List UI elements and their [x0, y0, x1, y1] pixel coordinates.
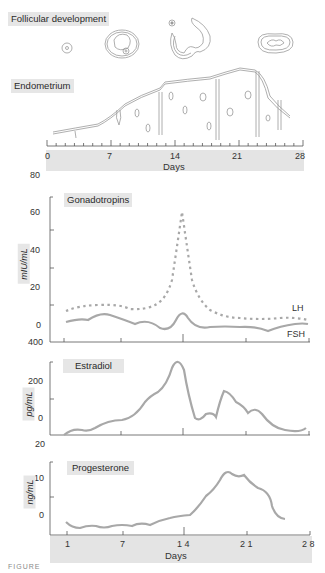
gonadotropins-stray-400: 400	[28, 337, 43, 347]
primordial-follicle-icon	[62, 43, 72, 53]
gonadotropins-title: Gonadotropins	[64, 193, 132, 207]
fsh-curve	[66, 313, 308, 331]
gonadotropins-stray-80: 80	[30, 170, 40, 180]
lh-series-label: LH	[292, 303, 304, 313]
bottom-tick-28: 2 8	[302, 539, 315, 549]
endometrium-illustration	[53, 68, 290, 140]
figure-caption: FIGURE	[8, 563, 40, 570]
top-axis-ticks	[47, 140, 303, 146]
endometrium-title: Endometrium	[11, 79, 74, 93]
estradiol-ylabel: pg/mL	[23, 387, 35, 420]
bottom-tick-14: 1 4	[177, 539, 190, 549]
top-tick-21: 21	[232, 151, 242, 161]
top-tick-28: 28	[295, 151, 305, 161]
estradiol-stray-20: 20	[35, 439, 45, 449]
ovulating-follicle-icon	[169, 18, 210, 59]
bottom-tick-1: 1	[65, 539, 70, 549]
progesterone-ytick-0: 0	[39, 510, 44, 520]
top-tick-7: 7	[107, 151, 112, 161]
bottom-tick-21: 2 1	[240, 539, 253, 549]
fsh-series-label: FSH	[287, 329, 305, 339]
gonadotropins-ylabel: mIU/mL	[18, 244, 30, 284]
top-tick-0: 0	[45, 151, 50, 161]
gonadotropins-ytick-60: 60	[30, 207, 40, 217]
progesterone-curve	[66, 472, 285, 528]
estradiol-ytick-0: 0	[38, 413, 43, 423]
bottom-xlabel: Days	[165, 550, 187, 561]
gonadotropins-ytick-0: 0	[36, 320, 41, 330]
top-xlabel: Days	[163, 161, 185, 172]
corpus-luteum-icon	[258, 34, 293, 53]
graafian-follicle-icon	[105, 30, 139, 58]
progesterone-title: Progesterone	[67, 461, 134, 475]
estradiol-title: Estradiol	[63, 359, 124, 373]
gonadotropins-ytick-40: 40	[30, 245, 40, 255]
lh-curve	[66, 212, 308, 320]
bottom-tick-7: 7	[120, 539, 125, 549]
progesterone-ylabel: ng/mL	[24, 475, 36, 508]
gonadotropins-ytick-20: 20	[30, 282, 40, 292]
estradiol-ytick-200: 200	[28, 376, 43, 386]
top-tick-14: 14	[170, 151, 180, 161]
